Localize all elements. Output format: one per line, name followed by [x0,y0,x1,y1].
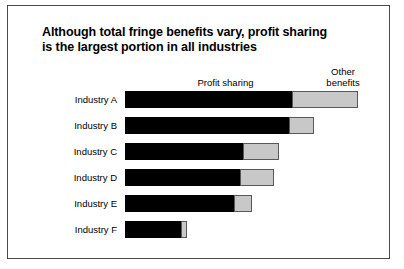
category-label: Industry D [27,169,117,186]
series-label-other-benefits-line-1: Other [331,66,355,77]
bar-row: Industry A [8,91,388,108]
bar-segment-other-benefits [234,195,252,212]
bar-row: Industry D [8,169,388,186]
bar-segment-profit-sharing [125,143,243,160]
category-label: Industry A [27,91,117,108]
chart-title: Although total fringe benefits vary, pro… [42,25,372,55]
bar-segment-other-benefits [243,143,279,160]
bar-segment-other-benefits [181,221,187,238]
category-label: Industry F [27,221,117,238]
bar-row: Industry F [8,221,388,238]
bar-segment-profit-sharing [125,169,240,186]
series-label-other-benefits: Other benefits [313,66,373,88]
figure-frame: Although total fringe benefits vary, pro… [7,5,390,259]
bar-segment-profit-sharing [125,91,292,108]
bar-track [125,169,274,186]
bar-track [125,143,279,160]
series-label-other-benefits-line-2: benefits [326,77,359,88]
bar-segment-other-benefits [289,117,314,134]
bar-row: Industry B [8,117,388,134]
chart-figure: Although total fringe benefits vary, pro… [0,0,404,269]
bar-segment-profit-sharing [125,221,181,238]
category-label: Industry B [27,117,117,134]
category-label: Industry E [27,195,117,212]
bar-track [125,117,314,134]
chart-title-line-1: Although total fringe benefits vary, pro… [42,25,372,40]
bar-track [125,195,252,212]
bar-track [125,221,187,238]
bar-segment-other-benefits [240,169,274,186]
bar-row: Industry E [8,195,388,212]
chart-title-line-2: is the largest portion in all industries [42,40,372,55]
bar-row: Industry C [8,143,388,160]
series-label-profit-sharing: Profit sharing [168,77,283,88]
bar-track [125,91,358,108]
bar-segment-profit-sharing [125,195,234,212]
bar-segment-profit-sharing [125,117,289,134]
category-label: Industry C [27,143,117,160]
bar-segment-other-benefits [292,91,358,108]
